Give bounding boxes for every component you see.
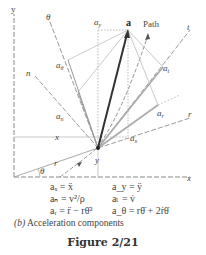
path-label: Path (143, 19, 160, 29)
y-dimension-label: y (94, 155, 99, 165)
a-n-vector (78, 92, 98, 148)
label-a-theta: aθ (56, 60, 64, 71)
y-axis-label: y (11, 4, 16, 14)
svg-text:ay: ay (94, 17, 102, 28)
r-dimension-label: r (54, 158, 58, 168)
equation-ar: aᵣ = r̈ − rθ̇² (50, 205, 92, 216)
theta-axis-label: θ (46, 12, 51, 22)
figure-title: Figure 2/21 (0, 236, 206, 249)
x-axis-label: x (186, 173, 191, 183)
acceleration-diagram: x y r r θ Path θ n t x y a ay (0, 0, 206, 255)
a-r-projection-perp (158, 95, 180, 105)
caption-text: Acceleration components (25, 218, 124, 228)
theta-dimension-label: θ (40, 166, 45, 176)
label-a-t: at (163, 63, 170, 74)
x-dimension-label: x (54, 132, 59, 142)
svg-text:aθ: aθ (56, 60, 64, 71)
label-a-x: ax (130, 133, 138, 144)
svg-text:ar: ar (157, 108, 165, 119)
r-axis (98, 118, 190, 148)
r-axis-label: r (188, 109, 192, 119)
equation-ax: aₓ = ẍ (50, 181, 73, 192)
svg-text:ax: ax (130, 133, 138, 144)
label-a-r: ar (157, 108, 165, 119)
equation-atheta: a_θ = rθ̈ + 2ṙθ̇ (112, 205, 169, 216)
path-arrow-icon (145, 33, 150, 40)
equation-ay: a_y = ÿ (112, 181, 142, 192)
equation-at: aₜ = v̇ (112, 193, 135, 204)
figure-caption: (b) Acceleration components (14, 218, 124, 228)
svg-text:an: an (56, 111, 64, 122)
svg-text:at: at (163, 63, 170, 74)
n-axis-label: n (26, 68, 31, 78)
label-a-n: an (56, 111, 64, 122)
particle-point (96, 146, 100, 150)
equation-an: aₙ = v²/ρ (50, 193, 85, 204)
a-t-projection (128, 30, 163, 67)
label-a-y: ay (94, 17, 102, 28)
path-curve (60, 35, 148, 177)
caption-label: (b) (14, 218, 25, 228)
path-arrow-lower-icon (77, 162, 82, 167)
a-r-projection (128, 30, 158, 105)
acceleration-label: a (126, 17, 131, 28)
